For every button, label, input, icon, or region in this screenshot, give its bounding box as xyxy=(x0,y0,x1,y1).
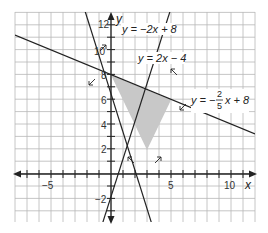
label-line-neg2x-plus-8: y = −2x + 8 xyxy=(121,23,178,35)
y-tick-6: 6 xyxy=(101,95,107,106)
x-axis-label: x xyxy=(244,178,252,192)
y-axis-arrow-down xyxy=(108,216,115,224)
label-line-neg-two-fifths-suffix: x + 8 xyxy=(224,94,250,106)
fraction-denominator: 5 xyxy=(217,101,222,111)
y-tick-2: 2 xyxy=(101,144,107,155)
y-axis-label: y xyxy=(115,12,123,26)
label-line-2x-minus-4: y = 2x − 4 xyxy=(137,52,186,64)
fraction-numerator: 2 xyxy=(217,89,222,99)
shaded-region xyxy=(111,75,171,150)
x-tick-neg5: −5 xyxy=(42,180,54,191)
x-tick-10: 10 xyxy=(224,180,236,191)
y-tick-neg2: −2 xyxy=(95,194,107,205)
y-tick-8: 8 xyxy=(101,70,107,81)
y-tick-10: 10 xyxy=(94,46,106,57)
y-tick-4: 4 xyxy=(101,120,107,131)
x-axis-arrow-left xyxy=(13,171,21,178)
y-tick-12: 12 xyxy=(98,19,110,30)
inequality-graph: y = −2x + 8 y = 2x − 4 y = − 2 5 x + 8 x… xyxy=(0,0,268,233)
arrow-icon xyxy=(155,157,161,163)
label-line-neg-two-fifths: y = − xyxy=(190,94,216,106)
arrow-icon xyxy=(89,79,95,85)
x-tick-5: 5 xyxy=(168,180,174,191)
x-axis-arrow-right xyxy=(249,171,257,178)
